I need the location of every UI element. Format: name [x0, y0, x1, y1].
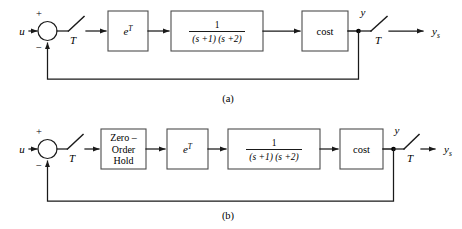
- panel-b-summing-junction: [38, 140, 57, 159]
- panel-b-zoh-line1: Zero –: [110, 132, 137, 143]
- panel-a-output-sampler-label: T: [375, 34, 382, 46]
- panel-b: u + − T Zero – Order Hold eT: [19, 124, 452, 222]
- panel-a-input-sampler-blade: [69, 17, 85, 32]
- panel-b-caption: (b): [222, 210, 235, 222]
- panel-a-plant-block: [171, 11, 263, 51]
- panel-a-plus-sign: +: [36, 8, 42, 19]
- panel-b-zoh-line2: Order: [112, 144, 136, 155]
- panel-b-plus-sign: +: [36, 126, 42, 137]
- panel-a-plant-denominator: (s +1) (s +2): [192, 34, 242, 45]
- panel-b-input-sampler-blade: [68, 135, 84, 150]
- panel-b-minus-sign: −: [36, 160, 42, 171]
- panel-b-zoh-line3: Hold: [114, 155, 134, 166]
- panel-a-input-sampler-label: T: [70, 34, 77, 46]
- panel-a: u + − T eT 1 (s +1) (s +2): [19, 6, 440, 105]
- panel-b-output-label-sub: s: [449, 149, 452, 158]
- panel-a-plant-numerator: 1: [215, 20, 220, 30]
- panel-a-minus-sign: −: [36, 42, 42, 53]
- panel-b-output-sampler-label: T: [407, 152, 414, 164]
- panel-a-output-sampler-blade: [371, 17, 387, 32]
- figure-root: u + − T eT 1 (s +1) (s +2): [0, 0, 462, 229]
- panel-a-summing-junction: [38, 22, 57, 41]
- panel-a-node-label: y: [360, 6, 366, 18]
- panel-b-node-label: y: [394, 124, 400, 136]
- panel-b-plant-numerator: 1: [272, 138, 277, 148]
- panel-a-output-label: ys: [431, 25, 440, 40]
- panel-b-input-label: u: [19, 143, 25, 155]
- panel-a-output-label-sub: s: [437, 31, 440, 40]
- panel-a-cost-block-label: cost: [317, 26, 334, 37]
- panel-b-output-label: ys: [443, 143, 452, 158]
- block-diagram-figure: u + − T eT 1 (s +1) (s +2): [0, 0, 462, 229]
- panel-b-plant-denominator: (s +1) (s +2): [249, 152, 299, 163]
- panel-b-cost-block-label: cost: [353, 144, 370, 155]
- panel-b-output-sampler-blade: [404, 135, 419, 150]
- panel-b-plant-block: [228, 129, 320, 169]
- panel-b-input-sampler-label: T: [69, 152, 76, 164]
- panel-a-input-label: u: [19, 25, 25, 37]
- panel-a-caption: (a): [222, 93, 234, 105]
